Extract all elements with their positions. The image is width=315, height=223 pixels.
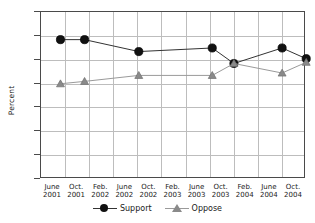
series-support [56,36,310,68]
chart-legend: SupportOppose [0,203,315,213]
data-point-marker [80,36,88,44]
chart-container: Percent 010203040506070 June2001Oct.2001… [0,0,315,223]
series-line [60,62,306,83]
series-oppose [56,58,310,86]
legend-circle-icon [93,203,117,213]
legend-item-oppose[interactable]: Oppose [165,203,222,213]
data-point-marker [278,44,286,52]
data-point-marker [135,47,143,55]
legend-label: Oppose [192,204,222,213]
data-point-marker [208,44,216,52]
series-line [60,40,306,64]
legend-label: Support [120,204,152,213]
legend-triangle-icon [165,203,189,213]
legend-item-support[interactable]: Support [93,203,152,213]
x-axis-tick-label: Oct.2004 [270,183,315,200]
data-point-marker [56,36,64,44]
